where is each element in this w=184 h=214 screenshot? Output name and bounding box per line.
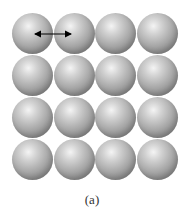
figure-caption: (a) (0, 192, 184, 208)
distance-arrow-icon (0, 0, 184, 214)
